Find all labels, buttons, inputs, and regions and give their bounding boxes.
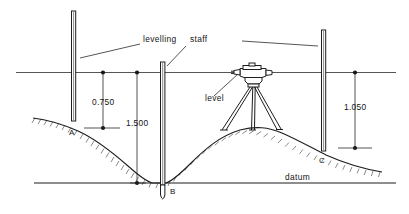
dim-1050-top-dot <box>353 70 357 74</box>
station-label-a: A <box>69 128 75 137</box>
tripod-leg-center-inner <box>255 87 256 130</box>
level-tribrach <box>245 78 262 85</box>
levelling-staff-b[interactable] <box>161 62 165 199</box>
level-label: level <box>205 93 224 103</box>
ground-hatching-left <box>32 118 164 188</box>
tripod-leg-center <box>252 87 253 130</box>
dim-1050-value: 1.050 <box>344 102 367 112</box>
levelling-staff-c[interactable] <box>322 30 326 151</box>
level-objective <box>266 70 272 75</box>
dim-1500-value: 1.500 <box>126 118 149 128</box>
level-instrument[interactable] <box>220 63 283 130</box>
dimension-1050: 1.050 <box>338 70 372 150</box>
levelling-staff-label-part2: staff <box>190 34 208 44</box>
dim-0750-value: 0.750 <box>92 97 115 107</box>
station-label-b: B <box>170 187 176 196</box>
tripod-leg-left-inner <box>226 87 253 130</box>
ground-hatching-hill <box>168 131 380 187</box>
tripod-leg-right <box>257 87 281 129</box>
tripod-leg-right-inner <box>255 87 278 130</box>
diagram-canvas: A B C <box>0 0 409 214</box>
tripod-leg-left <box>222 87 250 130</box>
datum-label: datum <box>285 172 310 182</box>
dim-1500-top-dot <box>135 70 139 74</box>
levelling-diagram: A B C <box>0 0 409 214</box>
station-label-c: C <box>319 156 325 165</box>
levelling-staff-a[interactable] <box>72 11 76 121</box>
level-tripod-head <box>248 84 259 87</box>
level-sight-collar <box>249 63 255 66</box>
dim-0750-top-dot <box>101 70 105 74</box>
leader-line-to-staff-a <box>80 44 140 58</box>
level-eyepiece <box>234 70 240 76</box>
dimension-0750: 0.750 <box>84 70 120 130</box>
levelling-staff-label-part1: levelling <box>143 34 176 44</box>
leader-line-to-staff-c <box>242 41 318 46</box>
staff-b-foot <box>161 185 165 199</box>
leader-line-to-staff-b <box>167 46 186 66</box>
